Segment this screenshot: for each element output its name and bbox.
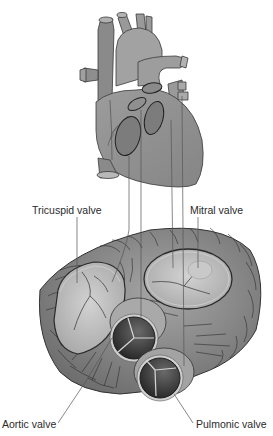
pulmonic-valve xyxy=(134,348,194,401)
label-tricuspid-valve: Tricuspid valve xyxy=(32,205,102,216)
anterior-heart xyxy=(80,13,203,188)
mitral-valve xyxy=(144,249,232,309)
superior-vena-cava xyxy=(98,18,114,104)
valve-plane xyxy=(39,228,260,401)
label-mitral-valve: Mitral valve xyxy=(190,205,243,216)
label-pulmonic-valve: Pulmonic valve xyxy=(196,419,267,430)
pulmonic-label-leader xyxy=(174,394,193,423)
heart-valves-diagram xyxy=(0,0,273,436)
label-aortic-valve: Aortic valve xyxy=(2,419,56,430)
